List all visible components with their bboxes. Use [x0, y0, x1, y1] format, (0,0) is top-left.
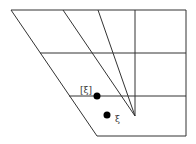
ray-1 — [63, 10, 135, 116]
outer-region — [11, 10, 186, 136]
label-point-a: [ξ] — [80, 85, 92, 95]
label-point-b: ξ — [115, 114, 120, 124]
point-b — [104, 112, 111, 119]
diagram-canvas: [ξ] ξ — [0, 0, 196, 144]
ray-2 — [98, 10, 135, 116]
point-a — [94, 93, 101, 100]
